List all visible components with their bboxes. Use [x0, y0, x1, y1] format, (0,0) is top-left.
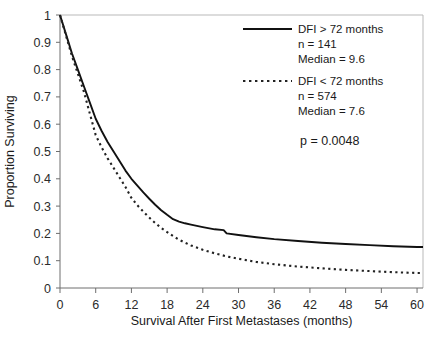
y-tick-label: 0.8 [34, 63, 51, 77]
y-tick-label: 0.2 [34, 227, 51, 241]
y-axis-ticks: 00.10.20.30.40.50.60.70.80.91 [34, 9, 60, 296]
chart-canvas: 00.10.20.30.40.50.60.70.80.91 0612182430… [0, 0, 441, 341]
y-axis-title: Proportion Surviving [3, 95, 17, 208]
x-tick-label: 18 [160, 298, 174, 312]
y-tick-label: 0.1 [34, 254, 51, 268]
x-tick-label: 0 [57, 298, 64, 312]
y-tick-label: 0.7 [34, 90, 51, 104]
y-tick-label: 0 [44, 282, 51, 296]
y-tick-label: 0.4 [34, 172, 51, 186]
legend-median-dfi-gt-72: Median = 9.6 [298, 53, 365, 65]
legend-median-dfi-lt-72: Median = 7.6 [298, 105, 365, 117]
x-axis-title: Survival After First Metastases (months) [131, 314, 353, 328]
y-tick-label: 1 [44, 9, 51, 23]
legend-n-dfi-gt-72: n = 141 [298, 38, 337, 50]
x-tick-label: 48 [339, 298, 353, 312]
x-tick-label: 36 [267, 298, 281, 312]
x-tick-label: 12 [124, 298, 138, 312]
y-tick-label: 0.3 [34, 200, 51, 214]
x-tick-label: 30 [232, 298, 246, 312]
legend-label-dfi-lt-72: DFI < 72 months [298, 75, 384, 87]
series-line-1 [60, 15, 423, 273]
x-tick-label: 60 [410, 298, 424, 312]
x-tick-label: 24 [196, 298, 210, 312]
x-axis-ticks: 06121824303642485460 [57, 288, 425, 312]
x-tick-label: 42 [303, 298, 317, 312]
p-value-annotation: p = 0.0048 [300, 134, 359, 148]
legend-label-dfi-gt-72: DFI > 72 months [298, 23, 384, 35]
legend-n-dfi-lt-72: n = 574 [298, 90, 337, 102]
x-tick-label: 6 [92, 298, 99, 312]
x-tick-label: 54 [374, 298, 388, 312]
y-tick-label: 0.6 [34, 118, 51, 132]
survival-chart: 00.10.20.30.40.50.60.70.80.91 0612182430… [0, 0, 441, 341]
series-line-0 [60, 15, 423, 247]
chart-legend: DFI > 72 months n = 141 Median = 9.6 DFI… [243, 23, 384, 148]
y-tick-label: 0.5 [34, 145, 51, 159]
series-layer [60, 15, 423, 273]
y-tick-label: 0.9 [34, 36, 51, 50]
